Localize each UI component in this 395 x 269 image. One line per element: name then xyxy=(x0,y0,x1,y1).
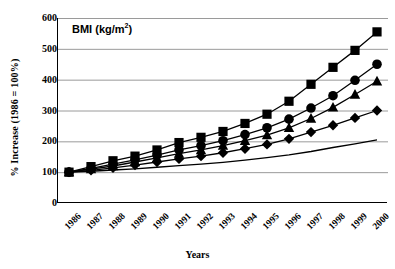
plot-annotation-bmi: BMI (kg/m2) xyxy=(72,22,132,35)
point-square-1992 xyxy=(196,133,205,142)
point-square-1995 xyxy=(262,110,271,119)
y-tick-300: 300 xyxy=(11,106,57,116)
point-circle-1998 xyxy=(328,91,338,101)
annotation-text: BMI (kg/m xyxy=(72,23,125,35)
point-diamond-1998 xyxy=(328,120,338,130)
y-tick-400: 400 xyxy=(11,75,57,85)
y-tick-200: 200 xyxy=(11,136,57,146)
point-square-1996 xyxy=(284,97,293,106)
point-square-1997 xyxy=(306,80,315,89)
point-circle-2000 xyxy=(372,59,382,69)
point-square-2000 xyxy=(372,27,381,36)
x-axis-tick-labels: 1986198719881989199019911992199319941995… xyxy=(57,205,387,245)
point-circle-1999 xyxy=(350,75,360,85)
point-square-1999 xyxy=(350,46,359,55)
point-circle-1997 xyxy=(306,103,316,113)
point-diamond-1995 xyxy=(262,139,272,149)
point-diamond-1997 xyxy=(306,127,316,137)
y-tick-0: 0 xyxy=(11,198,57,208)
point-triangle-1996 xyxy=(284,122,294,132)
point-triangle-1998 xyxy=(328,102,338,112)
x-axis-title: Years xyxy=(0,249,395,260)
point-triangle-1999 xyxy=(350,89,360,99)
point-square-1993 xyxy=(218,127,227,136)
y-tick-600: 600 xyxy=(11,13,57,23)
point-square-1998 xyxy=(328,63,337,72)
y-tick-500: 500 xyxy=(11,44,57,54)
y-tick-100: 100 xyxy=(11,167,57,177)
plot-area xyxy=(57,18,387,203)
point-diamond-1999 xyxy=(350,113,360,123)
chart-figure: % Increase (1986 = 100%) 600500400300200… xyxy=(0,0,395,269)
point-diamond-2000 xyxy=(372,105,382,115)
point-square-1994 xyxy=(240,119,249,128)
point-triangle-1997 xyxy=(306,113,316,123)
data-series-layer xyxy=(58,18,388,203)
point-triangle-2000 xyxy=(372,76,382,86)
annotation-tail: ) xyxy=(128,23,132,35)
point-diamond-1994 xyxy=(240,144,250,154)
point-diamond-1996 xyxy=(284,134,294,144)
